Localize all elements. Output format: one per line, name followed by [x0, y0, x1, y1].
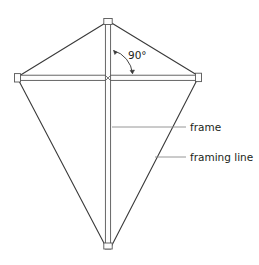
framing-line-top-left [19, 22, 107, 76]
kite-diagram-svg: 90° frame framing line [0, 0, 259, 265]
vertical-spar-bottom-cap [104, 243, 112, 249]
vertical-spar-group [104, 19, 112, 250]
angle-arrow-head-left [114, 51, 118, 55]
label-framing-line: framing line [190, 151, 253, 163]
angle-annotation-group: 90° [114, 49, 147, 74]
framing-line-bottom-right [111, 80, 197, 247]
vertical-spar-top-cap [104, 19, 112, 25]
label-frame: frame [190, 121, 221, 133]
kite-frame-diagram: 90° frame framing line [0, 0, 259, 265]
framing-line-bottom-left [19, 81, 106, 247]
angle-label: 90° [128, 49, 147, 61]
angle-arrow-head-right [130, 70, 135, 74]
horizontal-spar-right-cap [196, 73, 202, 81]
framing-line-top-right [110, 22, 197, 75]
vertical-spar [105, 20, 110, 249]
horizontal-spar-left-cap [15, 74, 21, 82]
